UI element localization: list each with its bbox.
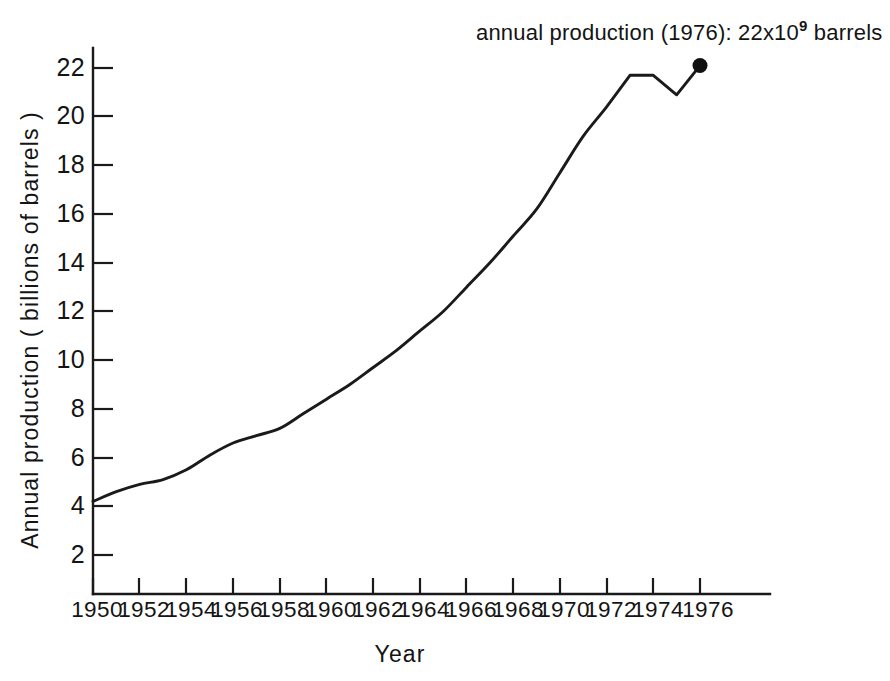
chart-figure: 22 20 18 16 14 12 10 8 6 4 2: [0, 0, 890, 681]
y-tick-label: 18: [56, 150, 85, 178]
x-tick-label: 1966: [445, 597, 497, 622]
y-tick-label: 14: [56, 248, 85, 276]
line-chart: 22 20 18 16 14 12 10 8 6 4 2: [0, 0, 890, 681]
x-tick-label: 1972: [585, 597, 637, 622]
x-tick-label: 1968: [492, 597, 544, 622]
x-tick-label: 1952: [118, 597, 170, 622]
x-tick-label: 1976: [682, 597, 734, 622]
production-line-series: [93, 66, 700, 502]
y-axis-title: Annual production ( billions of barrels …: [17, 111, 43, 549]
y-tick-label: 20: [56, 101, 85, 129]
x-tick-label: 1958: [258, 597, 310, 622]
y-tick-label: 8: [71, 394, 85, 422]
endpoint-marker-dot: [693, 58, 708, 73]
x-tick-label: 1962: [352, 597, 404, 622]
x-tick-label: 1960: [305, 597, 357, 622]
y-tick-label: 16: [56, 199, 85, 227]
x-tick-label: 1950: [71, 597, 123, 622]
annotation-prefix: annual production (1976): 22x10: [476, 20, 799, 45]
x-tick-label: 1964: [398, 597, 450, 622]
y-tick-label: 4: [71, 491, 85, 519]
y-tick-label: 10: [56, 345, 85, 373]
y-tick-marks: [93, 68, 113, 555]
annotation-superscript: 9: [799, 17, 808, 34]
x-tick-label: 1954: [165, 597, 217, 622]
x-tick-marks: [93, 578, 700, 594]
y-tick-label: 2: [71, 540, 85, 568]
y-tick-label: 22: [56, 53, 85, 81]
y-tick-label: 12: [56, 296, 85, 324]
x-tick-label: 1970: [538, 597, 590, 622]
x-tick-labels: 1950 1952 1954 1956 1958 1960 1962 1964 …: [71, 597, 734, 622]
y-tick-labels: 22 20 18 16 14 12 10 8 6 4 2: [56, 53, 85, 568]
annotation-suffix: barrels: [808, 20, 883, 45]
x-axis-title: Year: [375, 641, 426, 667]
x-tick-label: 1974: [632, 597, 684, 622]
x-tick-label: 1956: [211, 597, 263, 622]
y-tick-label: 6: [71, 443, 85, 471]
endpoint-annotation-text: annual production (1976): 22x109 barrels: [476, 17, 883, 45]
